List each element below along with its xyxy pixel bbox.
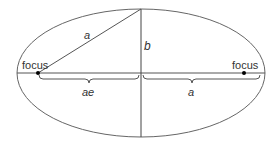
semi-major-label: a	[188, 86, 194, 98]
bracket-ae	[39, 75, 139, 83]
semi-major-hyp-label: a	[84, 29, 90, 41]
bracket-a	[143, 75, 260, 83]
focal-distance-label: ae	[82, 86, 94, 98]
focus-right-dot	[242, 71, 246, 75]
diagram-canvas: focus focus a b ae a	[0, 0, 278, 142]
focus-left-label: focus	[22, 59, 49, 71]
semi-minor-label: b	[144, 39, 151, 53]
focus-left-dot	[36, 71, 40, 75]
focus-to-vertex-line	[38, 9, 141, 73]
focus-right-label: focus	[232, 59, 259, 71]
ellipse-diagram: focus focus a b ae a	[0, 0, 278, 142]
